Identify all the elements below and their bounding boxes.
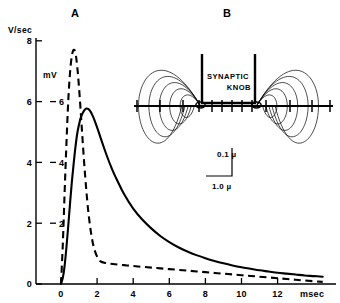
scale-horizontal-label: 1.0 µ	[212, 182, 232, 191]
curve-rate-of-rise	[61, 50, 323, 284]
y-axis-ticks: 02468	[27, 36, 42, 289]
y-tick-label: 8	[27, 36, 32, 46]
y-tick-label: 0	[27, 279, 32, 289]
x-tick-label: 2	[94, 289, 99, 299]
x-tick-label: 6	[167, 289, 172, 299]
y-tick-label: 6	[27, 97, 32, 107]
knob-label-line1: SYNAPTIC	[207, 72, 249, 81]
figure-canvas: A B V/sec mV 02468 246 024681012 msec SY…	[0, 0, 340, 303]
y-tick-label: 4	[27, 158, 32, 168]
secondary-y-tick-label: 4	[59, 158, 64, 168]
x-tick-label: 0	[58, 289, 63, 299]
panel-a-chart: V/sec mV 02468 246 024681012 msec	[8, 25, 336, 299]
secondary-y-axis-unit-label: mV	[43, 70, 57, 80]
y-tick-label: 2	[27, 219, 32, 229]
panel-label-b: B	[223, 7, 231, 19]
y-axis-unit-label: V/sec	[8, 25, 32, 35]
x-axis-ticks: 024681012	[58, 278, 283, 299]
scale-vertical-label: 0.1 µ	[217, 150, 237, 159]
panel-label-a: A	[71, 7, 79, 19]
x-tick-label: 12	[272, 289, 283, 299]
panel-b-diagram: SYNAPTIC KNOB 0.1 µ 1.0 µ	[134, 54, 333, 191]
x-tick-label: 10	[236, 289, 247, 299]
curve-synaptic-potential	[61, 109, 323, 284]
secondary-y-axis-ticks: 246	[50, 97, 64, 229]
x-tick-label: 8	[203, 289, 208, 299]
secondary-y-tick-label: 6	[59, 97, 64, 107]
knob-label-line2: KNOB	[227, 83, 251, 92]
x-tick-label: 4	[131, 289, 136, 299]
x-axis-unit-label: msec	[300, 289, 324, 299]
figure-root: A B V/sec mV 02468 246 024681012 msec SY…	[0, 0, 340, 303]
